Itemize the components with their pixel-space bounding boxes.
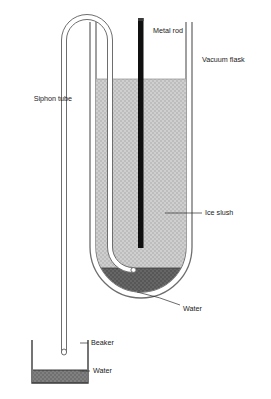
- metal-rod-body: [138, 18, 144, 248]
- beaker: [32, 340, 88, 383]
- metal-rod: [138, 18, 144, 248]
- label-beaker: Beaker: [91, 338, 114, 347]
- metal-rod-top-cap: [138, 18, 144, 21]
- diagram-root: Metal rod Vacuum flask Siphon tube Ice s…: [0, 0, 271, 399]
- label-vacuum-flask: Vacuum flask: [202, 55, 245, 64]
- label-water-flask: Water: [183, 304, 203, 313]
- label-metal-rod: Metal rod: [153, 26, 183, 35]
- label-siphon-tube: Siphon tube: [34, 94, 72, 103]
- siphon-tube-flask-tip: [131, 268, 136, 273]
- apparatus-diagram: Metal rod Vacuum flask Siphon tube Ice s…: [0, 0, 271, 399]
- label-ice-slush: Ice slush: [205, 208, 233, 217]
- siphon-tube-beaker-tip: [61, 349, 66, 355]
- beaker-water-fill: [33, 370, 87, 383]
- label-water-beaker: Water: [93, 366, 113, 375]
- flask-water-fill: [94, 268, 188, 308]
